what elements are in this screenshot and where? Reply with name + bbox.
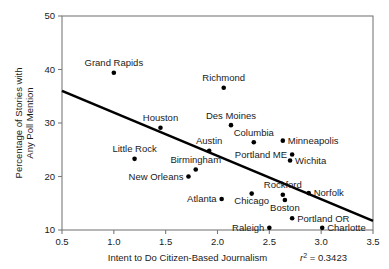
y-axis-title-line2: Any Poll Mention [24,87,35,158]
y-tick-label-20: 20 [44,171,55,182]
point-labels-layer: Grand RapidsRichmondHoustonDes MoinesCol… [85,57,366,233]
y-tick-label-30: 30 [44,117,55,128]
data-point-new-orleans [186,174,191,179]
point-label-norfolk: Norfolk [314,187,344,198]
data-point-atlanta [219,197,224,202]
data-point-raleigh [267,226,272,231]
point-label-new-orleans: New Orleans [129,171,184,182]
point-label-des-moines: Des Moines [206,110,256,121]
point-label-charlotte: Charlotte [327,222,366,233]
data-point-rockford [281,192,286,197]
point-label-boston: Boston [270,202,300,213]
point-label-minneapolis: Minneapolis [288,135,339,146]
point-label-austin: Austin [196,135,222,146]
x-tick-label-3.5: 3.5 [366,236,379,247]
y-axis-title-line1: Percentage of Stories with [13,68,24,179]
y-tick-label-50: 50 [44,10,55,21]
x-tick-label-0.5: 0.5 [55,236,68,247]
x-tick-label-1.5: 1.5 [159,236,172,247]
r-squared-annotation: r2 = 0.3423 [300,252,347,264]
chart-canvas: Grand RapidsRichmondHoustonDes MoinesCol… [0,0,389,269]
data-point-richmond [221,85,226,90]
data-point-houston [158,126,163,131]
data-point-little-rock [132,157,137,162]
x-axis-title: Intent to Do Citizen-Based Journalism [108,252,268,263]
point-label-richmond: Richmond [202,72,245,83]
point-label-birmingham: Birmingham [170,154,221,165]
point-label-portland-me: Portland ME [235,149,287,160]
point-label-raleigh: Raleigh [232,222,264,233]
data-point-des-moines [229,123,234,128]
tick-labels-layer: 10203040500.51.01.52.02.53.03.5 [44,10,379,247]
x-tick-label-2.0: 2.0 [211,236,224,247]
x-tick-label-3.0: 3.0 [315,236,328,247]
data-point-austin [207,149,212,154]
x-tick-label-2.5: 2.5 [263,236,276,247]
data-point-norfolk [306,191,311,196]
data-point-portland-or [290,216,295,221]
point-label-wichita: Wichita [295,155,327,166]
x-tick-label-1.0: 1.0 [107,236,120,247]
data-point-minneapolis [281,138,286,143]
data-point-charlotte [320,226,325,231]
data-point-wichita [288,158,293,163]
data-point-portland-me [290,152,295,157]
data-point-grand-rapids [112,70,117,75]
data-point-birmingham [193,167,198,172]
point-label-columbia: Columbia [234,127,275,138]
data-point-columbia [251,140,256,145]
point-label-rockford: Rockford [264,179,302,190]
point-label-atlanta: Atlanta [187,193,217,204]
y-tick-label-40: 40 [44,64,55,75]
point-label-little-rock: Little Rock [112,143,157,154]
y-tick-label-10: 10 [44,224,55,235]
point-label-grand-rapids: Grand Rapids [85,57,144,68]
point-label-houston: Houston [143,112,178,123]
point-label-chicago: Chicago [234,195,269,206]
scatter-chart: Grand RapidsRichmondHoustonDes MoinesCol… [0,0,389,269]
